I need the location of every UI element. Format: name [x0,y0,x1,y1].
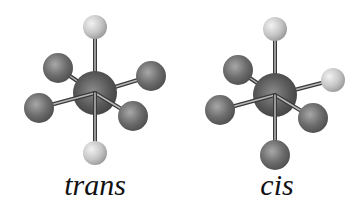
trans-label: trans [64,168,126,202]
trans-molecule [24,15,166,165]
ligand-atom-left [205,95,235,125]
ligand-atom-right [136,61,166,91]
ligand-atom-bottom [260,140,290,170]
ligand-atom-right [321,68,345,92]
ligand-atom-top [83,15,107,39]
isomer-diagram [0,0,358,213]
ligand-atom-top [263,17,287,41]
ligand-atom-bottom [83,141,107,165]
ligand-atom-left [24,93,54,123]
ligand-atom-upper-left [223,55,253,85]
ligand-atom-upper-left [43,53,73,83]
cis-label: cis [260,168,293,202]
ligand-atom-lower-right [118,101,148,131]
cis-molecule [205,17,345,170]
ligand-atom-lower-right [298,103,328,133]
